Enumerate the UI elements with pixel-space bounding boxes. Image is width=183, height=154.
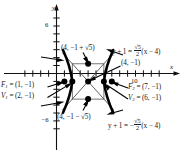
y-tick-label-6: 6 bbox=[45, 21, 48, 28]
vertex-2-value: = (6, −1) bbox=[135, 94, 161, 102]
point-center bbox=[85, 78, 91, 84]
x-axis-arrowhead bbox=[174, 71, 181, 76]
point-focus-1 bbox=[61, 78, 67, 84]
point-vertex-2 bbox=[101, 78, 107, 84]
focus-1-label: F1 = (1, −1) bbox=[1, 82, 34, 89]
center-point-label: (4, −1) bbox=[121, 60, 140, 67]
y-axis-label: y bbox=[52, 4, 55, 12]
asymptote-negative-rhs: (x − 4) bbox=[141, 122, 160, 130]
focus-1-value: = (1, −1) bbox=[8, 81, 34, 89]
hyperbola-figure: y x 6 −6 10 (4, −1 + √5) (4, −1 − √5) (4… bbox=[0, 0, 183, 154]
vertex-1-value: = (2, −1) bbox=[8, 92, 34, 100]
leader-arrows bbox=[41, 50, 128, 114]
focus-2-label: F2 = (7, −1) bbox=[128, 84, 161, 91]
asymptote-positive-equation: y + 1 = √52(x − 4) bbox=[112, 44, 160, 58]
vertex-2-label: V2 = (6, −1) bbox=[128, 95, 161, 102]
focus-2-value: = (7, −1) bbox=[135, 83, 161, 91]
asymptote-negative-lhs: y + 1 = − bbox=[108, 122, 134, 130]
x-axis-label: x bbox=[170, 63, 173, 71]
y-tick-label-neg6: −6 bbox=[42, 116, 49, 123]
asymptote-positive-rhs: (x − 4) bbox=[141, 48, 160, 56]
vertex-1-label: V1 = (2, −1) bbox=[1, 93, 34, 100]
covertex-top-label: (4, −1 + √5) bbox=[61, 45, 95, 52]
asymptote-negative-equation: y + 1 = −√52(x − 4) bbox=[108, 118, 160, 132]
asymptote-positive-lhs: y + 1 = bbox=[112, 48, 134, 56]
covertex-bottom-label: (4, −1 − √5) bbox=[57, 114, 91, 121]
